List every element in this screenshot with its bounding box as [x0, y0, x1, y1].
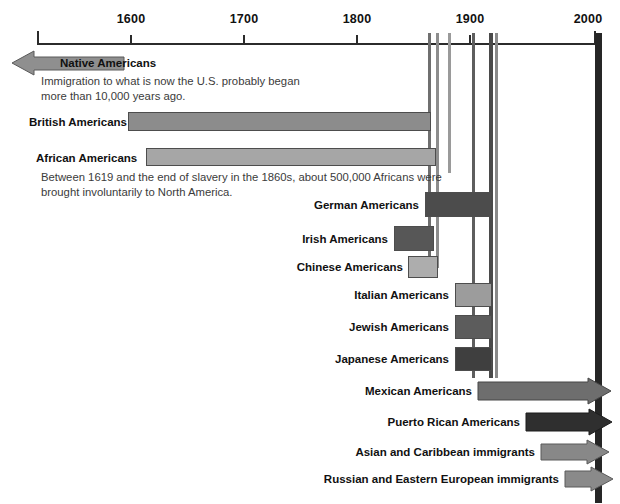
row-label-japanese-americans: Japanese Americans [290, 353, 449, 366]
bar-jewish-americans [455, 315, 492, 339]
immigration-timeline-chart: 1600 1700 1800 1900 2000 Native American… [0, 0, 620, 504]
row-label-native-americans: Native Americans [60, 57, 156, 70]
axis-label-1800: 1800 [343, 12, 372, 26]
era-line-1914 [495, 33, 498, 378]
row-label-jewish-americans: Jewish Americans [300, 321, 449, 334]
axis-tick-1700 [243, 35, 245, 44]
bar-german-americans [425, 192, 491, 217]
axis-label-1600: 1600 [117, 12, 146, 26]
row-label-italian-americans: Italian Americans [300, 289, 449, 302]
axis-tick-1600 [130, 35, 132, 44]
bar-italian-americans [455, 283, 492, 307]
axis-tick-1900 [469, 35, 471, 44]
axis-tick-1800 [356, 35, 358, 44]
axis-label-1900: 1900 [456, 12, 485, 26]
russian-eastern-european-right-arrow [565, 467, 613, 491]
asian-caribbean-right-arrow [541, 440, 609, 464]
bar-irish-americans [394, 226, 434, 251]
row-label-irish-americans: Irish Americans [240, 233, 388, 246]
axis-label-2000: 2000 [574, 12, 603, 26]
note-native-americans: Immigration to what is now the U.S. prob… [41, 74, 300, 103]
row-label-asian-caribbean-immigrants: Asian and Caribbean immigrants [330, 446, 535, 459]
row-label-puerto-rican-americans: Puerto Rican Americans [330, 416, 520, 429]
axis-left-cap [37, 31, 39, 44]
row-label-russian-eastern-european-immigrants: Russian and Eastern European immigrants [300, 473, 559, 486]
row-label-mexican-americans: Mexican Americans [318, 385, 472, 398]
mexican-americans-right-arrow [478, 378, 611, 404]
bar-african-americans [146, 148, 436, 166]
puerto-rican-americans-right-arrow [526, 409, 612, 435]
bar-british-americans [128, 112, 431, 131]
axis-baseline [37, 43, 596, 45]
axis-label-1700: 1700 [230, 12, 259, 26]
row-label-chinese-americans: Chinese Americans [248, 261, 403, 274]
row-label-british-americans: British Americans [29, 116, 127, 129]
bar-chinese-americans [408, 256, 438, 278]
era-line-1850 [436, 33, 439, 268]
row-label-german-americans: German Americans [270, 199, 419, 212]
note-african-americans: Between 1619 and the end of slavery in t… [41, 170, 442, 199]
bar-japanese-americans [455, 347, 492, 371]
row-label-african-americans: African Americans [36, 152, 137, 165]
era-line-1860 [448, 33, 451, 173]
